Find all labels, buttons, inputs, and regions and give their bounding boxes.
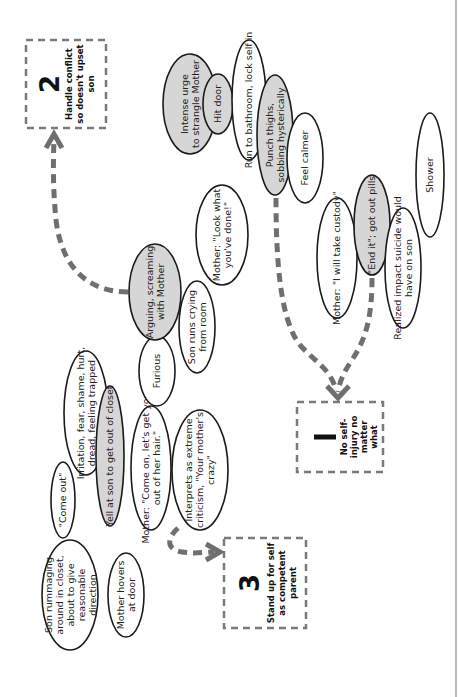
node-text: Arguing, screaming	[144, 246, 155, 339]
goal-2-number: 2	[35, 75, 65, 93]
node-text: you've done!"	[222, 202, 233, 268]
goal-3-line-3: parent	[288, 567, 298, 599]
node-text: Furious	[151, 354, 162, 388]
node-yell-at-son: Yell at son to get out of closet	[96, 385, 124, 527]
goal-3-line-1: Stand up for self	[266, 543, 276, 624]
node-text: around in closet,	[54, 555, 65, 634]
node-text: Shower	[424, 157, 435, 192]
node-text: Mother: "I will take custody"	[331, 191, 342, 325]
node-text: from room	[197, 302, 208, 352]
node-text: Mother hovers	[115, 561, 126, 630]
node-mother-come-on: Mother: "Come on, let's get you out of h…	[131, 392, 171, 543]
node-son-rummaging: Son rummaging around in closet, about to…	[42, 540, 98, 650]
node-mother-custody: Mother: "I will take custody"	[317, 191, 357, 325]
node-text: Punch thighs,	[264, 103, 275, 167]
arrow-interprets-to-goal-3	[170, 528, 220, 560]
node-interprets: Interprets as extreme criticism, "Your m…	[172, 410, 228, 530]
node-text: to strangle Mother	[190, 60, 201, 148]
goal-box-1: 1 No self- injury no matter what	[297, 402, 383, 472]
chain-analysis-diagram: 2 Handle conflict so doesn't upset son 1…	[0, 0, 459, 697]
goal-2-line-3: son	[86, 76, 96, 93]
node-text: Mother: "Come on, let's get you	[140, 392, 151, 543]
goal-3-line-2: as competent	[277, 550, 287, 615]
goal-2-line-1: Handle conflict	[64, 48, 74, 120]
node-text: Son runs crying	[186, 290, 197, 364]
goal-2-line-2: so doesn't upset	[75, 44, 85, 123]
node-text: sobbing hysterically	[275, 87, 286, 183]
node-mother-look-what: Mother: "Look what you've done!"	[196, 185, 248, 285]
node-hit-door: Hit door	[203, 74, 233, 134]
node-text: at door	[126, 578, 137, 612]
node-text: crazy"	[205, 455, 216, 485]
node-punch-thighs: Punch thighs, sobbing hysterically	[257, 75, 293, 195]
goal-box-3: 3 Stand up for self as competent parent	[224, 538, 306, 628]
node-furious: Furious	[139, 336, 175, 406]
node-text: out of her hair."	[151, 431, 162, 505]
node-text: Realized impact suicide would	[392, 196, 403, 339]
node-text: reasonable	[76, 569, 87, 622]
goal-box-2: 2 Handle conflict so doesn't upset son	[26, 40, 106, 128]
node-text: Irritation, fear, shame, hurt,	[75, 347, 86, 479]
node-text: "Come out"	[57, 473, 68, 528]
node-text: Hit door	[212, 85, 223, 123]
node-text: about to give	[65, 563, 76, 626]
node-text: Mother: "Look what	[211, 188, 222, 281]
arrow-arguing-to-goal-2	[46, 134, 128, 292]
node-text: Yell at son to get out of closet	[104, 385, 115, 527]
node-text: Son rummaging	[43, 557, 54, 633]
node-text: Intense urge	[179, 74, 190, 134]
goal-1-line-2: injury no	[349, 416, 359, 459]
node-text: direction	[87, 574, 98, 616]
node-text: with Mother	[155, 264, 166, 321]
goal-1-line-3: matter	[359, 420, 369, 453]
goal-1-line-1: No self-	[339, 418, 349, 455]
node-shower: Shower	[416, 113, 444, 237]
goal-1-number: 1	[310, 428, 340, 446]
node-text: have on son	[403, 239, 414, 297]
node-text: Feel calmer	[299, 130, 310, 185]
node-feel-calmer: Feel calmer	[287, 113, 323, 203]
node-mother-hovers: Mother hovers at door	[108, 553, 144, 637]
goal-3-number: 3	[235, 574, 265, 592]
node-text: Run to bathroom, lock self in	[243, 32, 254, 169]
node-come-out: "Come out"	[51, 462, 75, 538]
node-text: "End it"; got out pills	[366, 176, 377, 275]
goal-1-line-4: what	[369, 425, 379, 449]
node-text: Interprets as extreme	[183, 418, 194, 521]
node-arguing: Arguing, screaming with Mother	[129, 244, 181, 340]
node-text: criticism, "Your mother's	[194, 412, 205, 528]
node-son-runs-crying: Son runs crying from room	[179, 281, 215, 373]
